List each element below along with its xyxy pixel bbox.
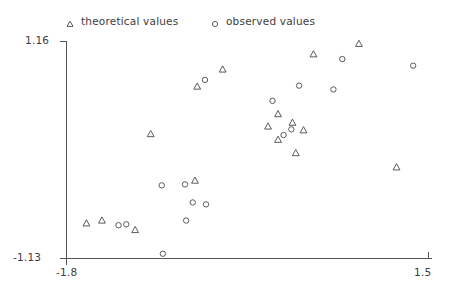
data-point-circle	[182, 182, 187, 187]
axis-group	[60, 41, 432, 265]
scatter-plot-figure: theoretical values observed values 1.16 …	[0, 0, 452, 298]
data-point-circle	[270, 98, 275, 103]
data-point-circle	[124, 222, 129, 227]
data-point-triangle	[275, 111, 282, 117]
data-point-circle	[116, 223, 121, 228]
plot-canvas	[0, 0, 452, 298]
data-point-triangle	[275, 136, 282, 142]
x-axis-label-left: -1.8	[56, 266, 77, 278]
data-point-triangle	[355, 40, 362, 46]
data-point-triangle	[194, 83, 201, 89]
data-point-triangle	[310, 51, 317, 57]
data-point-circle	[160, 251, 165, 256]
data-point-triangle	[83, 220, 90, 226]
y-axis-label-bottom: -1.13	[13, 251, 41, 263]
data-point-circle	[203, 202, 208, 207]
data-point-triangle	[219, 66, 226, 72]
data-point-triangle	[192, 177, 199, 183]
data-point-circle	[202, 77, 207, 82]
y-axis-label-top: 1.16	[25, 34, 49, 46]
data-point-circle	[190, 200, 195, 205]
data-point-triangle	[147, 130, 154, 136]
data-point-circle	[296, 83, 301, 88]
data-point-circle	[331, 87, 336, 92]
data-point-triangle	[99, 217, 106, 223]
series-theoretical	[83, 40, 400, 232]
data-point-circle	[183, 218, 188, 223]
series-observed	[116, 56, 416, 256]
data-point-circle	[340, 56, 345, 61]
data-point-circle	[289, 127, 294, 132]
data-point-circle	[410, 63, 415, 68]
data-point-triangle	[300, 127, 307, 133]
data-point-circle	[281, 132, 286, 137]
data-point-triangle	[292, 149, 299, 155]
data-point-triangle	[132, 226, 139, 232]
data-point-circle	[159, 183, 164, 188]
data-point-triangle	[289, 119, 296, 125]
x-axis-label-right: 1.5	[414, 266, 431, 278]
data-point-triangle	[393, 164, 400, 170]
data-point-triangle	[265, 123, 272, 129]
data-point-layer	[83, 40, 416, 256]
